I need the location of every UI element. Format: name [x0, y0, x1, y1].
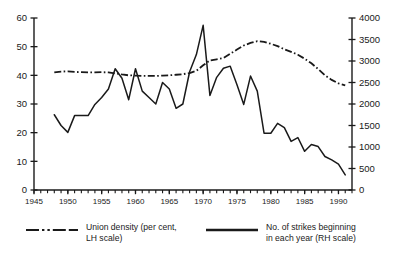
right-axis-tick-label: 3500 [359, 34, 380, 45]
x-axis-tick-label: 1950 [59, 197, 77, 206]
legend-item-union-density: Union density (per cent, LH scale) [26, 222, 206, 243]
right-axis-tick-label: 0 [359, 184, 364, 195]
solid-line-swatch-icon [206, 225, 258, 235]
right-axis-tick-label: 1000 [359, 141, 380, 152]
right-axis-tick-label: 500 [359, 163, 375, 174]
x-axis-tick-label: 1960 [127, 197, 145, 206]
left-axis-tick-label: 0 [22, 184, 27, 195]
x-axis-tick-label: 1970 [194, 197, 212, 206]
right-axis-tick-label: 1500 [359, 120, 380, 131]
dash-dot-line-swatch-icon [26, 225, 78, 235]
x-axis-tick-label: 1965 [160, 197, 178, 206]
series-line-union-density [54, 41, 345, 85]
left-axis-tick-label: 50 [16, 41, 27, 52]
right-axis-tick-label: 2000 [359, 98, 380, 109]
x-axis-tick-label: 1990 [330, 197, 348, 206]
left-axis-tick-label: 40 [16, 70, 27, 81]
x-axis-tick-label: 1955 [93, 197, 111, 206]
x-axis-tick-label: 1985 [296, 197, 314, 206]
chart-container: 0102030405060050010001500200025003000350… [0, 0, 403, 263]
axis-tick-labels: 0102030405060050010001500200025003000350… [16, 12, 380, 205]
left-axis-tick-label: 30 [16, 98, 27, 109]
left-axis-tick-label: 10 [16, 156, 27, 167]
legend-label-union-density: Union density (per cent, LH scale) [86, 222, 177, 243]
chart-legend: Union density (per cent, LH scale) No. o… [0, 222, 403, 263]
x-axis-tick-label: 1980 [262, 197, 280, 206]
series-layer [54, 25, 345, 175]
left-axis-tick-label: 20 [16, 127, 27, 138]
axes-layer [31, 18, 356, 194]
legend-label-strikes: No. of strikes beginning in each year (R… [266, 222, 356, 243]
x-axis-tick-label: 1975 [228, 197, 246, 206]
right-axis-tick-label: 4000 [359, 12, 380, 23]
right-axis-tick-label: 3000 [359, 55, 380, 66]
x-axis-tick-label: 1945 [25, 197, 43, 206]
series-line-strikes [54, 25, 345, 175]
left-axis-tick-label: 60 [16, 12, 27, 23]
legend-item-strikes: No. of strikes beginning in each year (R… [206, 222, 356, 243]
right-axis-tick-label: 2500 [359, 77, 380, 88]
